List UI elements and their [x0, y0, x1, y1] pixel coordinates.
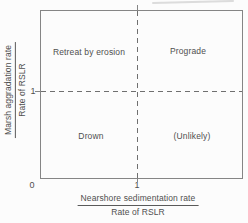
marsh-response-quadrant-figure: Retreat by erosion Prograde Drown (Unlik… [0, 0, 248, 223]
quadrant-label-retreat-by-erosion: Retreat by erosion [53, 47, 125, 57]
x-axis-label: Nearshore sedimentation rate Rate of RSL… [78, 193, 199, 217]
x-axis-tick-label: 1 [134, 180, 139, 190]
x-axis-label-denominator: Rate of RSLR [78, 206, 199, 218]
y-axis-tick-label: 1 [30, 86, 35, 96]
x-threshold-dashed-line [137, 11, 138, 178]
y-axis-label-numerator: Marsh aggradation rate [3, 42, 16, 138]
quadrant-label-unlikely: (Unlikely) [174, 131, 211, 141]
quadrant-label-drown: Drown [78, 131, 103, 141]
y-axis-label-denominator: Rate of RSLR [16, 42, 28, 138]
x-threshold-top-tick-mark [137, 5, 138, 10]
y-axis-tick-mark [35, 91, 40, 92]
y-threshold-dashed-line [41, 91, 242, 92]
y-axis-label: Marsh aggradation rate Rate of RSLR [3, 42, 27, 138]
quadrant-label-prograde: Prograde [170, 46, 206, 56]
plot-area: Retreat by erosion Prograde Drown (Unlik… [40, 10, 243, 179]
x-axis-label-numerator: Nearshore sedimentation rate [78, 193, 199, 206]
origin-tick-label: 0 [29, 180, 34, 190]
scan-artifact [152, 0, 234, 4]
